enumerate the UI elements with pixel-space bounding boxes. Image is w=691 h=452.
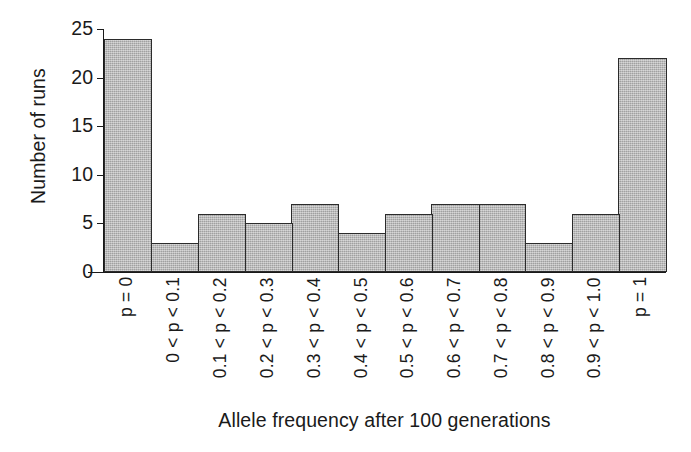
x-axis-title-text: Allele frequency after 100 generations (218, 409, 550, 431)
x-axis-tick-label-text: 0.4 < p < 0.5 (352, 277, 370, 378)
y-axis-tick-labels: 0510152025 (53, 0, 93, 452)
x-axis-tick-label: 0.5 < p < 0.6 (385, 274, 432, 400)
x-axis-tick-label-text: 0.2 < p < 0.3 (259, 277, 277, 378)
x-axis-tick-label: 0.9 < p < 1.0 (572, 274, 619, 400)
histogram-bar (572, 214, 620, 272)
x-axis-tick-label: 0.3 < p < 0.4 (291, 274, 338, 400)
x-axis-tick-label-text: 0.3 < p < 0.4 (306, 277, 324, 378)
x-axis-tick-label: 0.1 < p < 0.2 (198, 274, 245, 400)
x-axis-title: Allele frequency after 100 generations (104, 409, 665, 432)
x-axis-tick-label-text: 0.5 < p < 0.6 (399, 277, 417, 378)
x-axis-tick-labels: p = 00 < p < 0.10.1 < p < 0.20.2 < p < 0… (104, 274, 665, 400)
histogram-bar (618, 58, 666, 272)
x-axis-tick-label-text: 0.7 < p < 0.8 (493, 277, 511, 378)
y-axis-tick-label: 10 (53, 165, 93, 185)
plot-area (104, 29, 665, 272)
histogram-bar (291, 204, 339, 272)
x-axis-tick-label-text: 0.1 < p < 0.2 (212, 277, 230, 378)
histogram-bar (104, 39, 152, 272)
y-axis-tick-label: 0 (53, 262, 93, 282)
y-axis-title-text: Number of runs (27, 68, 50, 204)
x-axis-tick-label-text: 0 < p < 0.1 (165, 277, 183, 363)
x-axis-tick-label: 0.4 < p < 0.5 (338, 274, 385, 400)
y-axis-tick-label: 15 (53, 116, 93, 136)
x-axis-tick-label: p = 0 (104, 274, 151, 400)
histogram-bar (198, 214, 246, 272)
x-axis-tick-label-text: p = 1 (633, 277, 651, 317)
x-axis-line (88, 272, 666, 273)
histogram-bar (478, 204, 526, 272)
y-axis-title: Number of runs (18, 0, 58, 272)
histogram-figure: Number of runs 0510152025 p = 00 < p < 0… (0, 0, 691, 452)
histogram-bar (385, 214, 433, 272)
x-axis-tick-label-text: 0.9 < p < 1.0 (586, 277, 604, 378)
histogram-bar (151, 243, 199, 272)
x-axis-tick-label: 0.8 < p < 0.9 (525, 274, 572, 400)
histogram-bar (244, 223, 292, 272)
x-axis-tick-label-text: p = 0 (119, 277, 137, 317)
x-axis-tick-label: p = 1 (618, 274, 665, 400)
histogram-bar (431, 204, 479, 272)
x-axis-tick-label: 0.6 < p < 0.7 (431, 274, 478, 400)
x-axis-tick-label-text: 0.6 < p < 0.7 (446, 277, 464, 378)
x-axis-tick-label: 0.7 < p < 0.8 (478, 274, 525, 400)
histogram-bar (525, 243, 573, 272)
y-axis-tick-label: 5 (53, 214, 93, 234)
y-axis-tick-label: 25 (53, 19, 93, 39)
x-axis-tick-label: 0.2 < p < 0.3 (244, 274, 291, 400)
x-axis-tick-label-text: 0.8 < p < 0.9 (539, 277, 557, 378)
x-axis-tick-label: 0 < p < 0.1 (151, 274, 198, 400)
histogram-bar (338, 233, 386, 272)
y-axis-tick-label: 20 (53, 68, 93, 88)
